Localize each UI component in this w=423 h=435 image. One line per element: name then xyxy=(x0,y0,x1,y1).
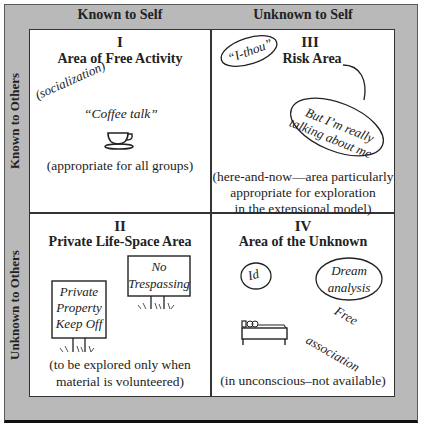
row-header-unknown-to-others: Unknown to Others xyxy=(4,213,26,397)
analysis-label: analysis xyxy=(314,280,384,296)
sign-line: Trespassing xyxy=(128,276,190,292)
coffee-talk-label: “Coffee talk” xyxy=(84,106,158,122)
speech-bubble xyxy=(280,60,410,170)
row-header-label: Known to Others xyxy=(7,73,23,169)
quadrant-note-line-1: (to be explored only when xyxy=(30,356,210,373)
column-header-unknown-to-self: Unknown to Self xyxy=(213,7,393,23)
quadrant-numeral: II xyxy=(30,218,210,235)
row-header-label: Unknown to Others xyxy=(7,250,23,360)
quadrant-note-line-2: appropriate for exploration xyxy=(212,184,394,201)
quadrant-title: Private Life-Space Area xyxy=(30,234,210,250)
quadrant-title: Area of Free Activity xyxy=(30,51,210,67)
quadrant-numeral: III xyxy=(290,34,330,51)
quadrant-note-line-1: (here-and-now—area particularly xyxy=(212,168,394,185)
quadrant-note-line-2: material is volunteered) xyxy=(30,373,210,390)
coffee-cup-icon xyxy=(103,131,137,151)
sign-line: No xyxy=(128,259,190,275)
sign-line: Property xyxy=(52,300,106,316)
quadrant-note: (in unconscious–not available) xyxy=(212,372,394,389)
column-header-known-to-self: Known to Self xyxy=(30,7,210,23)
dream-label: Dream xyxy=(314,263,384,279)
quadrant-title: Area of the Unknown xyxy=(212,234,394,250)
quadrant-note: (appropriate for all groups) xyxy=(30,157,210,174)
row-header-known-to-others: Known to Others xyxy=(4,29,26,213)
couch-bed-icon xyxy=(240,319,292,347)
sign-line: Private xyxy=(52,284,106,300)
quadrant-note-line-3: in the extensional model) xyxy=(212,200,394,217)
sign-line: Keep Off xyxy=(52,316,106,332)
quadrant-numeral: IV xyxy=(212,218,394,235)
quadrant-numeral: I xyxy=(30,34,210,51)
